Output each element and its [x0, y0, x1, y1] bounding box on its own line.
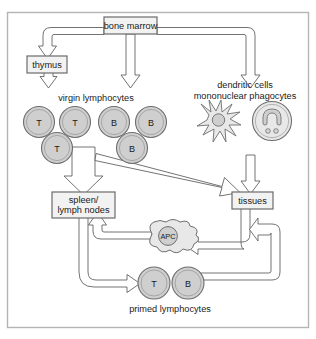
primed-t-cell-letter: T — [151, 279, 157, 289]
box-thymus[interactable]: thymus — [27, 56, 67, 73]
box-spleen-lymph-nodes[interactable]: spleen/ lymph nodes — [52, 192, 115, 218]
figure-root: T T B B T B — [0, 0, 316, 339]
apc-label: APC — [160, 232, 176, 241]
virgin-b-cell-2: B — [136, 107, 167, 138]
label-primed-lymphocytes: primed lymphocytes — [129, 304, 211, 314]
virgin-b-cell-1-letter: B — [111, 118, 117, 128]
lymphocyte-circulation-diagram: T T B B T B — [0, 0, 316, 339]
box-spleen-label-line2: lymph nodes — [57, 205, 109, 215]
virgin-b-cell-1: B — [99, 107, 130, 138]
box-bone-marrow[interactable]: bone marrow — [104, 17, 158, 34]
virgin-t-cell-2-letter: T — [72, 118, 78, 128]
virgin-b-cell-3-letter: B — [129, 144, 135, 154]
macrophage-cell — [253, 102, 292, 141]
primed-t-cell: T — [138, 267, 170, 299]
box-bone-marrow-label: bone marrow — [104, 21, 158, 31]
virgin-t-cell-1: T — [24, 107, 55, 138]
virgin-b-cell-2-letter: B — [148, 118, 154, 128]
box-tissues[interactable]: tissues — [232, 192, 273, 209]
primed-b-cell: B — [172, 267, 204, 299]
box-thymus-label: thymus — [32, 60, 62, 70]
box-tissues-label: tissues — [238, 196, 267, 206]
label-dendritic-cells: dendritic cells — [217, 80, 273, 90]
virgin-b-cell-3: B — [117, 133, 148, 164]
virgin-t-cell-2: T — [60, 107, 91, 138]
virgin-t-cell-3-letter: T — [54, 144, 60, 154]
virgin-t-cell-3: T — [42, 133, 73, 164]
label-mononuclear-phagocytes: mononuclear phagocytes — [194, 91, 297, 101]
box-spleen-label-line1: spleen/ — [69, 195, 99, 205]
label-virgin-lymphocytes: virgin lymphocytes — [58, 93, 134, 103]
virgin-t-cell-1-letter: T — [36, 118, 42, 128]
primed-b-cell-letter: B — [185, 279, 191, 289]
